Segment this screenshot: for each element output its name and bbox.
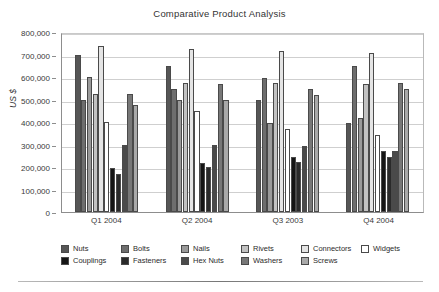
bar-widgets[interactable]	[375, 135, 380, 212]
chart-legend: NutsBoltsNailsRivetsConnectorsWidgetsCou…	[61, 244, 421, 268]
bar-nuts[interactable]	[166, 66, 171, 212]
legend-label: Couplings	[73, 256, 106, 265]
legend-item-screws[interactable]: Screws	[301, 256, 361, 265]
bar-connectors[interactable]	[369, 53, 374, 212]
legend-label: Rivets	[253, 244, 274, 253]
legend-item-hex-nuts[interactable]: Hex Nuts	[181, 256, 241, 265]
plot-area	[61, 33, 424, 213]
y-axis-tick-label: 700,000	[21, 51, 50, 60]
bar-screws[interactable]	[314, 95, 319, 212]
bar-couplings[interactable]	[200, 163, 205, 212]
bar-bolts[interactable]	[262, 78, 267, 212]
y-axis-tick	[52, 78, 56, 79]
bar-fasteners[interactable]	[116, 174, 121, 212]
legend-item-fasteners[interactable]: Fasteners	[121, 256, 181, 265]
footer-divider	[18, 281, 423, 282]
y-axis-tick-label: 400,000	[21, 119, 50, 128]
bar-group	[333, 34, 423, 212]
legend-row: NutsBoltsNailsRivetsConnectorsWidgets	[61, 244, 421, 253]
bar-fasteners[interactable]	[206, 167, 211, 212]
legend-swatch-icon	[241, 257, 249, 265]
legend-label: Fasteners	[133, 256, 166, 265]
legend-swatch-icon	[361, 245, 369, 253]
bar-nails[interactable]	[358, 118, 363, 213]
legend-item-nails[interactable]: Nails	[181, 244, 241, 253]
bar-hex-nuts[interactable]	[122, 145, 127, 212]
y-axis-tick-label: 100,000	[21, 186, 50, 195]
bar-screws[interactable]	[404, 89, 409, 212]
y-axis-tick	[52, 101, 56, 102]
legend-swatch-icon	[121, 245, 129, 253]
x-axis-labels: Q1 2004Q2 2004Q3 2003Q4 2004	[61, 216, 424, 230]
y-axis-tick-label: 600,000	[21, 74, 50, 83]
legend-item-washers[interactable]: Washers	[241, 256, 301, 265]
legend-label: Hex Nuts	[193, 256, 224, 265]
bar-screws[interactable]	[223, 100, 228, 212]
x-axis-tick-label: Q3 2003	[243, 216, 334, 230]
x-axis-tick-label: Q1 2004	[61, 216, 152, 230]
legend-label: Screws	[313, 256, 338, 265]
legend-swatch-icon	[61, 245, 69, 253]
y-axis-tick-label: 0	[46, 209, 50, 218]
bar-nails[interactable]	[177, 100, 182, 212]
plot-frame	[61, 33, 424, 213]
legend-item-couplings[interactable]: Couplings	[61, 256, 121, 265]
y-axis-tick-label: 800,000	[21, 29, 50, 38]
bar-hex-nuts[interactable]	[212, 145, 217, 212]
legend-row: CouplingsFastenersHex NutsWashersScrews	[61, 256, 421, 265]
bar-group	[243, 34, 333, 212]
y-axis-tick-label: 200,000	[21, 164, 50, 173]
bar-connectors[interactable]	[279, 51, 284, 212]
bar-bolts[interactable]	[352, 66, 357, 212]
bar-connectors[interactable]	[98, 46, 103, 212]
bar-nuts[interactable]	[75, 55, 80, 213]
bar-rivets[interactable]	[183, 83, 188, 212]
y-axis-tick	[52, 213, 56, 214]
bar-hex-nuts[interactable]	[392, 151, 397, 212]
x-axis-tick-label: Q4 2004	[333, 216, 424, 230]
bar-fasteners[interactable]	[387, 157, 392, 212]
legend-swatch-icon	[181, 257, 189, 265]
legend-label: Washers	[253, 256, 282, 265]
legend-item-rivets[interactable]: Rivets	[241, 244, 301, 253]
bar-rivets[interactable]	[363, 84, 368, 212]
bar-couplings[interactable]	[381, 151, 386, 212]
bar-washers[interactable]	[218, 84, 223, 212]
bar-bolts[interactable]	[81, 100, 86, 212]
bar-nuts[interactable]	[346, 123, 351, 212]
y-axis-tick	[52, 33, 56, 34]
bar-screws[interactable]	[133, 105, 138, 212]
bar-nuts[interactable]	[256, 100, 261, 212]
bar-couplings[interactable]	[110, 168, 115, 212]
legend-item-widgets[interactable]: Widgets	[361, 244, 421, 253]
bar-washers[interactable]	[398, 83, 403, 212]
bar-bolts[interactable]	[171, 89, 176, 212]
bar-groups	[62, 34, 423, 212]
bar-widgets[interactable]	[104, 122, 109, 212]
legend-item-bolts[interactable]: Bolts	[121, 244, 181, 253]
bar-fasteners[interactable]	[296, 162, 301, 212]
bar-connectors[interactable]	[189, 49, 194, 212]
legend-swatch-icon	[61, 257, 69, 265]
bar-couplings[interactable]	[291, 157, 296, 212]
legend-label: Bolts	[133, 244, 150, 253]
bar-group	[62, 34, 152, 212]
bar-washers[interactable]	[308, 89, 313, 212]
legend-label: Widgets	[373, 244, 400, 253]
legend-swatch-icon	[301, 245, 309, 253]
bar-nails[interactable]	[87, 77, 92, 212]
bar-widgets[interactable]	[194, 111, 199, 212]
y-axis-tick	[52, 168, 56, 169]
legend-label: Connectors	[313, 244, 351, 253]
bar-hex-nuts[interactable]	[302, 146, 307, 212]
bar-nails[interactable]	[267, 123, 272, 212]
legend-label: Nails	[193, 244, 210, 253]
y-axis-tick	[52, 56, 56, 57]
bar-widgets[interactable]	[285, 129, 290, 212]
legend-swatch-icon	[241, 245, 249, 253]
legend-item-nuts[interactable]: Nuts	[61, 244, 121, 253]
bar-washers[interactable]	[127, 94, 132, 212]
bar-rivets[interactable]	[273, 83, 278, 212]
legend-item-connectors[interactable]: Connectors	[301, 244, 361, 253]
bar-rivets[interactable]	[93, 94, 98, 212]
